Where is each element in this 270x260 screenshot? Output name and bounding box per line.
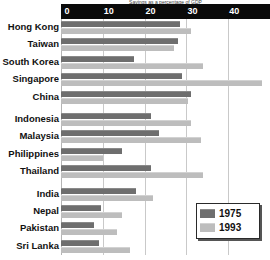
bar-row <box>61 188 270 202</box>
bar-1993-pakistan <box>61 229 117 235</box>
bar-1975-sri-lanka <box>61 240 99 246</box>
bar-1993-south-korea <box>61 63 203 69</box>
bar-1975-hong-kong <box>61 21 180 27</box>
x-axis-header: 01020304050 <box>61 4 270 19</box>
bar-1975-singapore <box>61 73 182 79</box>
legend-swatch-1993-icon <box>200 223 215 232</box>
category-label-nepal: Nepal <box>1 206 59 216</box>
bar-row <box>61 113 270 127</box>
legend-item-1975: 1975 <box>200 207 241 220</box>
x-axis-tick-20: 20 <box>146 5 156 18</box>
category-label-singapore: Singapore <box>1 74 59 84</box>
category-label-hong-kong: Hong Kong <box>1 22 59 32</box>
category-label-thailand: Thailand <box>1 166 59 176</box>
bar-1975-indonesia <box>61 113 151 119</box>
bar-1993-sri-lanka <box>61 247 130 253</box>
bar-1993-philippines <box>61 155 103 161</box>
bar-1993-taiwan <box>61 45 174 51</box>
bar-row <box>61 56 270 70</box>
bar-1993-indonesia <box>61 120 191 126</box>
bar-1975-pakistan <box>61 222 94 228</box>
bar-1975-india <box>61 188 136 194</box>
category-label-philippines: Philippines <box>1 149 59 159</box>
bar-1993-nepal <box>61 212 122 218</box>
x-axis-tick-0: 0 <box>64 5 69 18</box>
category-labels: Hong KongTaiwanSouth KoreaSingaporeChina… <box>0 19 59 255</box>
category-label-sri-lanka: Sri Lanka <box>1 241 59 251</box>
bar-1993-malaysia <box>61 137 201 143</box>
category-label-south-korea: South Korea <box>1 57 59 67</box>
legend-label-1993: 1993 <box>219 222 241 233</box>
bar-row <box>61 91 270 105</box>
category-label-india: India <box>1 189 59 199</box>
chart-legend: 1975 1993 <box>196 203 260 239</box>
category-label-taiwan: Taiwan <box>1 39 59 49</box>
x-axis-tick-10: 10 <box>104 5 114 18</box>
bar-1993-singapore <box>61 80 262 86</box>
x-axis-tick-40: 40 <box>229 5 239 18</box>
category-label-pakistan: Pakistan <box>1 223 59 233</box>
x-axis-tick-30: 30 <box>187 5 197 18</box>
category-label-indonesia: Indonesia <box>1 114 59 124</box>
bar-row <box>61 21 270 35</box>
category-label-malaysia: Malaysia <box>1 131 59 141</box>
bar-1975-thailand <box>61 165 151 171</box>
bar-row <box>61 240 270 254</box>
bar-1975-south-korea <box>61 56 134 62</box>
bar-1993-hong-kong <box>61 28 191 34</box>
bar-row <box>61 165 270 179</box>
bar-1993-thailand <box>61 172 203 178</box>
legend-label-1975: 1975 <box>219 208 241 219</box>
bar-chart: Savings as a percentage of GDP 010203040… <box>0 0 270 260</box>
bar-row <box>61 38 270 52</box>
bar-1975-nepal <box>61 205 101 211</box>
bar-1975-taiwan <box>61 38 178 44</box>
legend-swatch-1975-icon <box>200 209 215 218</box>
bar-1993-china <box>61 98 188 104</box>
category-label-china: China <box>1 92 59 102</box>
bar-row <box>61 73 270 87</box>
bar-1975-malaysia <box>61 130 159 136</box>
bar-1975-philippines <box>61 148 122 154</box>
bar-1993-india <box>61 195 153 201</box>
bar-1975-china <box>61 91 191 97</box>
bar-row <box>61 130 270 144</box>
bar-row <box>61 148 270 162</box>
legend-item-1993: 1993 <box>200 221 241 234</box>
